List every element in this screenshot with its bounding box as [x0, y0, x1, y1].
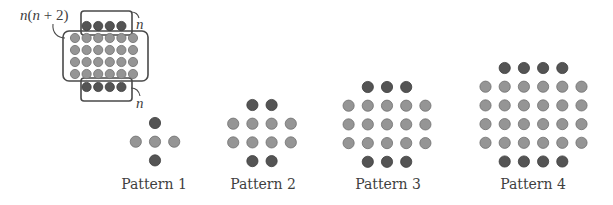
light-dot — [94, 57, 103, 66]
light-dot — [538, 81, 549, 92]
light-dot — [149, 136, 160, 147]
light-dot — [538, 119, 549, 130]
dark-dot — [247, 99, 258, 110]
dark-dot — [557, 62, 568, 73]
light-dot — [105, 57, 114, 66]
dark-dot — [266, 99, 277, 110]
pattern-4: Pattern 4 — [480, 62, 587, 192]
light-dot — [557, 137, 568, 148]
pattern-label: Pattern 4 — [500, 176, 566, 192]
top-side-label: n — [136, 16, 144, 32]
light-dot — [381, 100, 392, 111]
light-dot — [518, 100, 529, 111]
light-dot — [362, 138, 373, 149]
light-dot — [82, 45, 91, 54]
light-dot — [480, 119, 491, 130]
light-dot — [70, 69, 79, 78]
dark-dot — [401, 156, 412, 167]
light-dot — [94, 45, 103, 54]
light-dot — [343, 138, 354, 149]
light-dot — [105, 33, 114, 42]
light-dot — [266, 118, 277, 129]
light-dot — [401, 119, 412, 130]
light-dot — [228, 118, 239, 129]
light-dot — [247, 118, 258, 129]
light-dot — [576, 100, 587, 111]
decomposition-diagram: n(n + 2) n n — [20, 7, 148, 111]
light-dot — [285, 118, 296, 129]
light-dot — [557, 100, 568, 111]
dark-dot — [247, 156, 258, 167]
light-dot — [576, 81, 587, 92]
light-dot — [117, 33, 126, 42]
light-dot — [538, 137, 549, 148]
dark-dot — [381, 156, 392, 167]
light-dot — [381, 119, 392, 130]
patterns-group: Pattern 1Pattern 2Pattern 3Pattern 4 — [121, 62, 587, 192]
dark-dot — [557, 156, 568, 167]
light-dot — [362, 119, 373, 130]
light-dot — [117, 45, 126, 54]
dark-dot — [499, 62, 510, 73]
dark-dot — [499, 156, 510, 167]
light-dot — [70, 45, 79, 54]
pattern-label: Pattern 1 — [121, 176, 187, 192]
light-dot — [82, 69, 91, 78]
dark-dot — [82, 21, 91, 30]
dark-dot — [538, 156, 549, 167]
pattern-3: Pattern 3 — [343, 81, 431, 192]
light-dot — [128, 57, 137, 66]
light-dot — [480, 81, 491, 92]
light-dot — [247, 137, 258, 148]
light-dot — [266, 137, 277, 148]
dark-dot — [518, 156, 529, 167]
light-dot — [420, 100, 431, 111]
dark-dot — [94, 21, 103, 30]
bottom-side-label: n — [136, 95, 144, 111]
light-dot — [401, 100, 412, 111]
dark-dot — [149, 155, 160, 166]
light-dot — [130, 136, 141, 147]
light-dot — [82, 57, 91, 66]
formula-label: n(n + 2) — [20, 7, 68, 24]
light-dot — [557, 81, 568, 92]
light-dot — [169, 136, 180, 147]
light-dot — [117, 69, 126, 78]
light-dot — [576, 119, 587, 130]
light-dot — [285, 137, 296, 148]
dark-dot — [105, 21, 114, 30]
light-dot — [499, 81, 510, 92]
light-dot — [499, 119, 510, 130]
light-dot — [70, 57, 79, 66]
light-dot — [499, 100, 510, 111]
dark-dot — [518, 62, 529, 73]
dark-dot — [117, 82, 126, 91]
light-dot — [381, 138, 392, 149]
dark-dot — [362, 81, 373, 92]
pattern-1: Pattern 1 — [121, 117, 187, 192]
dark-dot — [82, 82, 91, 91]
light-dot — [70, 33, 79, 42]
light-dot — [480, 100, 491, 111]
pattern-2: Pattern 2 — [228, 99, 297, 192]
light-dot — [480, 137, 491, 148]
light-dot — [557, 119, 568, 130]
light-dot — [128, 69, 137, 78]
light-dot — [499, 137, 510, 148]
light-dot — [343, 100, 354, 111]
light-dot — [576, 137, 587, 148]
dark-dot — [538, 62, 549, 73]
light-dot — [401, 138, 412, 149]
light-dot — [105, 69, 114, 78]
light-dot — [518, 137, 529, 148]
dark-dot — [381, 81, 392, 92]
pattern-label: Pattern 3 — [355, 176, 421, 192]
dark-dot — [401, 81, 412, 92]
dark-dot — [362, 156, 373, 167]
light-dot — [518, 119, 529, 130]
light-dot — [94, 69, 103, 78]
light-dot — [128, 33, 137, 42]
light-dot — [518, 81, 529, 92]
dark-dot — [117, 21, 126, 30]
light-dot — [362, 100, 373, 111]
